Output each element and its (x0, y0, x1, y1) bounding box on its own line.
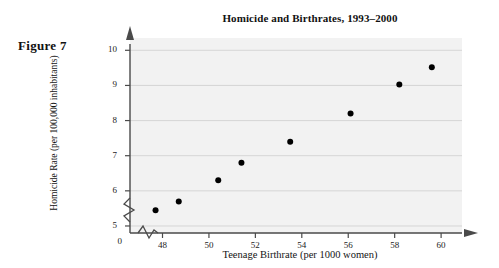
x-axis-arrowhead (464, 229, 478, 237)
x-tick-label: 54 (291, 240, 313, 250)
y-tick-label: 10 (99, 44, 117, 54)
y-tick-label: 8 (99, 115, 117, 125)
data-point (215, 177, 221, 183)
data-point (176, 198, 182, 204)
y-tick-label: 6 (99, 185, 117, 195)
data-point (153, 207, 159, 213)
x-tick-label: 48 (152, 240, 174, 250)
x-tick-marks-group (163, 233, 442, 238)
figure-container: Figure 7 Homicide and Birthrates, 1993–2… (0, 0, 499, 268)
data-point (287, 139, 293, 145)
origin-tick-label: 0 (106, 236, 122, 246)
data-point (238, 160, 244, 166)
x-tick-label: 50 (198, 240, 220, 250)
x-tick-label: 58 (384, 240, 406, 250)
x-tick-label: 56 (337, 240, 359, 250)
y-tick-label: 5 (99, 220, 117, 230)
data-point (396, 81, 402, 87)
data-point (429, 64, 435, 70)
data-point (348, 111, 354, 117)
scatter-plot-canvas (0, 0, 499, 268)
y-tick-label: 9 (99, 79, 117, 89)
x-tick-label: 60 (430, 240, 452, 250)
x-tick-label: 52 (244, 240, 266, 250)
y-tick-label: 7 (99, 150, 117, 160)
y-axis-arrowhead (126, 26, 134, 40)
